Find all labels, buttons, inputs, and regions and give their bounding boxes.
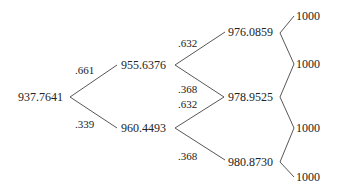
prob-1down-down: .368 <box>178 151 197 162</box>
node-3-c: 1000 <box>296 122 320 134</box>
node-1-down: 960.4493 <box>121 122 166 134</box>
prob-1up-down: .368 <box>178 84 197 95</box>
node-1-up: 955.6376 <box>121 59 166 71</box>
prob-root-up: .661 <box>75 65 94 76</box>
node-3-d: 1000 <box>296 171 320 183</box>
node-2-bot: 980.8730 <box>228 156 273 168</box>
node-2-top: 976.0859 <box>228 26 273 38</box>
node-3-a: 1000 <box>296 10 320 22</box>
prob-1down-up: .632 <box>178 99 197 110</box>
prob-1up-up: .632 <box>178 38 197 49</box>
node-2-mid: 978.9525 <box>228 91 273 103</box>
prob-root-down: .339 <box>75 119 94 130</box>
node-3-b: 1000 <box>296 58 320 70</box>
node-root: 937.7641 <box>18 91 63 103</box>
